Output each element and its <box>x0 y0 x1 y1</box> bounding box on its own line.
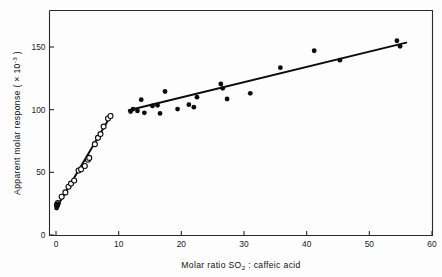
data-point <box>312 48 317 53</box>
data-point <box>225 97 230 102</box>
data-point <box>59 194 64 199</box>
scatter-plot: 0102030405060 050100150 Molar ratio SO2 … <box>0 0 442 277</box>
y-tick-label-100: 100 <box>32 105 46 115</box>
y-tick-label-150: 150 <box>32 42 46 52</box>
data-point <box>139 97 144 102</box>
data-point <box>142 110 147 115</box>
data-point <box>398 44 403 49</box>
y-axis-title: Apparent molar response ( × 10-3 ) <box>11 51 22 195</box>
data-point <box>248 91 253 96</box>
y-tick-label-0: 0 <box>41 230 46 240</box>
data-point <box>98 132 103 137</box>
data-point <box>220 86 225 91</box>
data-point <box>63 190 68 195</box>
data-point <box>191 105 196 110</box>
data-point <box>158 111 163 116</box>
fit-lines-group <box>56 43 406 208</box>
y-axis-ticks: 050100150 <box>32 42 54 240</box>
x-tick-label-40: 40 <box>302 239 312 249</box>
x-tick-label-50: 50 <box>365 239 375 249</box>
data-point <box>337 58 342 63</box>
data-point <box>72 178 77 183</box>
data-point <box>55 201 60 206</box>
figure-container: 0102030405060 050100150 Molar ratio SO2 … <box>0 0 442 277</box>
y-tick-label-50: 50 <box>36 167 46 177</box>
data-point <box>218 82 223 87</box>
x-tick-label-60: 60 <box>427 239 437 249</box>
data-point <box>186 102 191 107</box>
data-point <box>150 104 155 109</box>
data-point <box>135 109 140 114</box>
shallow-plateau-fit <box>129 43 407 111</box>
data-point <box>395 38 400 43</box>
x-axis-ticks: 0102030405060 <box>54 231 437 249</box>
data-point <box>82 164 87 169</box>
x-tick-label-10: 10 <box>114 239 124 249</box>
data-point <box>175 107 180 112</box>
data-point <box>195 95 200 100</box>
data-point <box>108 113 113 118</box>
data-point <box>155 103 160 108</box>
data-point <box>87 155 92 160</box>
data-point <box>278 65 283 70</box>
data-point <box>163 89 168 94</box>
x-tick-label-0: 0 <box>54 239 59 249</box>
x-axis-title: Molar ratio SO2 : caffeic acid <box>181 260 300 271</box>
x-tick-label-30: 30 <box>239 239 249 249</box>
data-point <box>101 124 106 129</box>
x-tick-label-20: 20 <box>177 239 187 249</box>
data-point <box>92 142 97 147</box>
data-point <box>131 107 136 112</box>
